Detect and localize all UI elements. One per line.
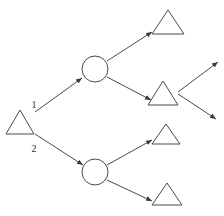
lower-mid-triangle[interactable]	[152, 124, 180, 144]
edge-label-1: 1	[32, 99, 37, 110]
edge-lower-circle-to-leaf-4	[107, 180, 152, 201]
top-right-triangle[interactable]	[152, 10, 184, 34]
edge-leaf-2-out-lower	[178, 94, 216, 119]
edge-lower-circle-to-leaf-3	[107, 140, 152, 165]
diagram-canvas: 12	[0, 0, 224, 216]
edge-label-2: 2	[32, 143, 37, 154]
lower-circle[interactable]	[82, 159, 108, 185]
edge-upper-circle-to-leaf-2	[107, 77, 151, 100]
diagram-svg: 12	[0, 0, 224, 216]
edge-root-to-lower-circle	[35, 134, 83, 165]
upper-circle[interactable]	[82, 56, 108, 82]
middle-right-triangle[interactable]	[148, 81, 178, 105]
edge-leaf-2-out-upper	[178, 62, 218, 92]
edge-upper-circle-to-leaf-1	[107, 32, 152, 61]
root-triangle[interactable]	[6, 110, 34, 134]
edge-labels-layer: 12	[32, 99, 37, 154]
edge-root-to-upper-circle	[35, 78, 82, 112]
bottom-right-triangle[interactable]	[152, 183, 182, 205]
edges-layer	[35, 32, 218, 201]
